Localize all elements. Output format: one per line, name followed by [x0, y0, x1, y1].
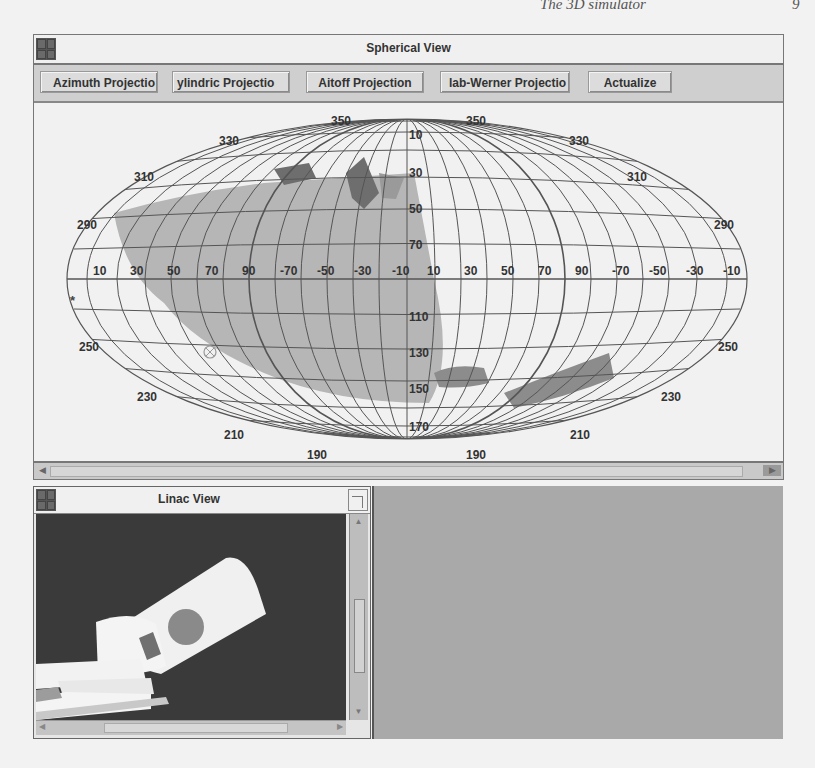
label-290-left: 290 [77, 218, 97, 232]
page-header: The 3D simulator 9 [540, 0, 815, 14]
hammer-werner-projection-button[interactable]: lab-Werner Projectio [440, 71, 570, 93]
svg-text:70: 70 [205, 264, 219, 278]
label-190-right: 190 [466, 448, 486, 462]
svg-text:-50: -50 [317, 264, 335, 278]
svg-text:-70: -70 [612, 264, 630, 278]
linac-3d-model [36, 514, 346, 720]
svg-text:-10: -10 [723, 264, 741, 278]
label-center-170: 170 [409, 420, 429, 434]
spherical-view-titlebar[interactable]: Spherical View [34, 35, 783, 65]
linac-horizontal-scrollbar[interactable]: ◀ ▶ [36, 720, 346, 735]
aitoff-projection-plot: 330 350 350 330 310 290 250 230 210 190 … [34, 103, 783, 463]
cylindric-projection-button[interactable]: ylindric Projectio [172, 71, 290, 93]
label-center-130: 130 [409, 346, 429, 360]
label-center-150: 150 [409, 382, 429, 396]
label-230-left: 230 [137, 390, 157, 404]
graticule [67, 119, 747, 439]
actualize-button[interactable]: Actualize [588, 71, 672, 93]
svg-text:30: 30 [464, 264, 478, 278]
crosshair-marker-icon[interactable] [204, 346, 216, 358]
vertical-scroll-thumb[interactable] [354, 599, 365, 673]
label-350-left: 350 [331, 114, 351, 128]
label-center-10: 10 [409, 128, 423, 142]
azimuth-projection-button[interactable]: Azimuth Projectio [40, 71, 158, 93]
label-center-50: 50 [409, 202, 423, 216]
linac-view-window: Linac View ▲ ▼ ◀ ▶ [33, 486, 371, 739]
label-center-110: 110 [409, 310, 429, 324]
scroll-left-arrow-icon[interactable]: ◀ [39, 722, 45, 731]
horizontal-scrollbar[interactable]: ◀ ▶ [34, 461, 783, 479]
aitoff-projection-button[interactable]: Aitoff Projection [306, 71, 424, 93]
window-title: Spherical View [34, 41, 783, 55]
sphere-projection-canvas[interactable]: 330 350 350 330 310 290 250 230 210 190 … [34, 103, 783, 463]
linac-horizontal-scroll-thumb[interactable] [104, 723, 288, 733]
projection-toolbar: Azimuth Projectio ylindric Projectio Ait… [34, 65, 783, 103]
page-header-text: The 3D simulator [540, 0, 646, 12]
label-290-right: 290 [714, 218, 734, 232]
spherical-view-window: Spherical View Azimuth Projectio ylindri… [33, 34, 784, 480]
scroll-down-arrow-icon[interactable]: ▼ [352, 706, 365, 718]
label-250-left: 250 [79, 340, 99, 354]
label-210-left: 210 [224, 428, 244, 442]
label-310-right: 310 [627, 170, 647, 184]
linac-3d-canvas[interactable] [36, 514, 346, 720]
svg-text:10: 10 [93, 264, 107, 278]
empty-workspace-area [372, 486, 783, 739]
label-330-right: 330 [569, 134, 589, 148]
label-250-right: 250 [718, 340, 738, 354]
label-center-70: 70 [409, 238, 423, 252]
page-number: 9 [792, 0, 800, 13]
label-310-left: 310 [134, 170, 154, 184]
svg-text:90: 90 [242, 264, 256, 278]
label-190-left: 190 [307, 448, 327, 462]
svg-text:-30: -30 [686, 264, 704, 278]
linac-view-titlebar[interactable]: Linac View [34, 487, 370, 514]
svg-text:-10: -10 [392, 264, 410, 278]
svg-text:-50: -50 [649, 264, 667, 278]
label-center-30: 30 [409, 166, 423, 180]
svg-text:30: 30 [130, 264, 144, 278]
svg-text:-30: -30 [354, 264, 372, 278]
scroll-left-arrow-icon[interactable]: ◀ [36, 465, 48, 476]
linac-vertical-scrollbar[interactable]: ▲ ▼ [349, 514, 368, 720]
scroll-right-arrow-icon[interactable]: ▶ [763, 465, 781, 476]
label-230-right: 230 [661, 390, 681, 404]
scroll-right-arrow-icon[interactable]: ▶ [337, 722, 343, 731]
star-marker-icon[interactable]: * [70, 293, 76, 308]
maximize-icon[interactable] [348, 489, 368, 511]
scroll-up-arrow-icon[interactable]: ▲ [352, 516, 365, 528]
svg-text:10: 10 [427, 264, 441, 278]
svg-text:70: 70 [538, 264, 552, 278]
label-350-right: 350 [466, 114, 486, 128]
svg-text:-70: -70 [280, 264, 298, 278]
svg-text:50: 50 [501, 264, 515, 278]
svg-text:50: 50 [167, 264, 181, 278]
horizontal-scroll-thumb[interactable] [50, 466, 743, 477]
svg-text:90: 90 [575, 264, 589, 278]
label-330-left: 330 [219, 134, 239, 148]
linac-view-title: Linac View [34, 492, 344, 506]
label-210-right: 210 [570, 428, 590, 442]
